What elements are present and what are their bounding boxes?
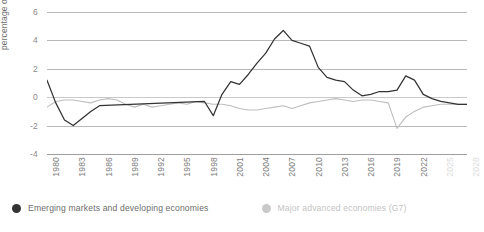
x-tick-label-1995: 1995 bbox=[182, 157, 192, 177]
legend-dot-icon bbox=[12, 204, 21, 213]
legend-item-advanced[interactable]: Major advanced economies (G7) bbox=[262, 203, 407, 213]
x-tick-label-1980: 1980 bbox=[51, 157, 61, 177]
chart-legend: Emerging markets and developing economie… bbox=[12, 203, 407, 213]
x-tick-label-2001: 2001 bbox=[235, 157, 245, 177]
y-tick-label-6: 6 bbox=[0, 7, 38, 17]
legend-label-emerging: Emerging markets and developing economie… bbox=[28, 203, 209, 213]
chart-root: percentage of GDP 6420-2-4 1980198319861… bbox=[0, 0, 484, 232]
x-tick-label-2016: 2016 bbox=[366, 157, 376, 177]
x-tick-label-2028: 2028 bbox=[471, 157, 481, 177]
y-tick-label-4: 4 bbox=[0, 35, 38, 45]
x-tick-label-1989: 1989 bbox=[130, 157, 140, 177]
x-tick-label-1986: 1986 bbox=[104, 157, 114, 177]
x-axis-line bbox=[47, 154, 467, 155]
x-tick-label-1983: 1983 bbox=[77, 157, 87, 177]
x-tick-label-1992: 1992 bbox=[156, 157, 166, 177]
x-tick-label-1998: 1998 bbox=[209, 157, 219, 177]
legend-item-emerging[interactable]: Emerging markets and developing economie… bbox=[12, 203, 209, 213]
y-axis-ticks: 6420-2-4 bbox=[0, 12, 44, 154]
x-tick-label-2025: 2025 bbox=[445, 157, 455, 177]
x-tick-label-2010: 2010 bbox=[314, 157, 324, 177]
x-tick-label-2013: 2013 bbox=[340, 157, 350, 177]
x-tick-label-2019: 2019 bbox=[392, 157, 402, 177]
y-tick-label--4: -4 bbox=[0, 149, 38, 159]
series-line bbox=[47, 30, 467, 125]
y-tick-label--2: -2 bbox=[0, 121, 38, 131]
legend-dot-icon bbox=[262, 204, 271, 213]
y-tick-label-2: 2 bbox=[0, 64, 38, 74]
series-line bbox=[47, 99, 467, 129]
x-tick-label-2007: 2007 bbox=[287, 157, 297, 177]
x-axis-ticks: 1980198319861989199219951998200120042007… bbox=[47, 157, 467, 197]
series-container bbox=[47, 12, 467, 154]
x-tick-label-2022: 2022 bbox=[419, 157, 429, 177]
x-tick-label-2004: 2004 bbox=[261, 157, 271, 177]
y-tick-label-0: 0 bbox=[0, 92, 38, 102]
legend-label-advanced: Major advanced economies (G7) bbox=[278, 203, 407, 213]
